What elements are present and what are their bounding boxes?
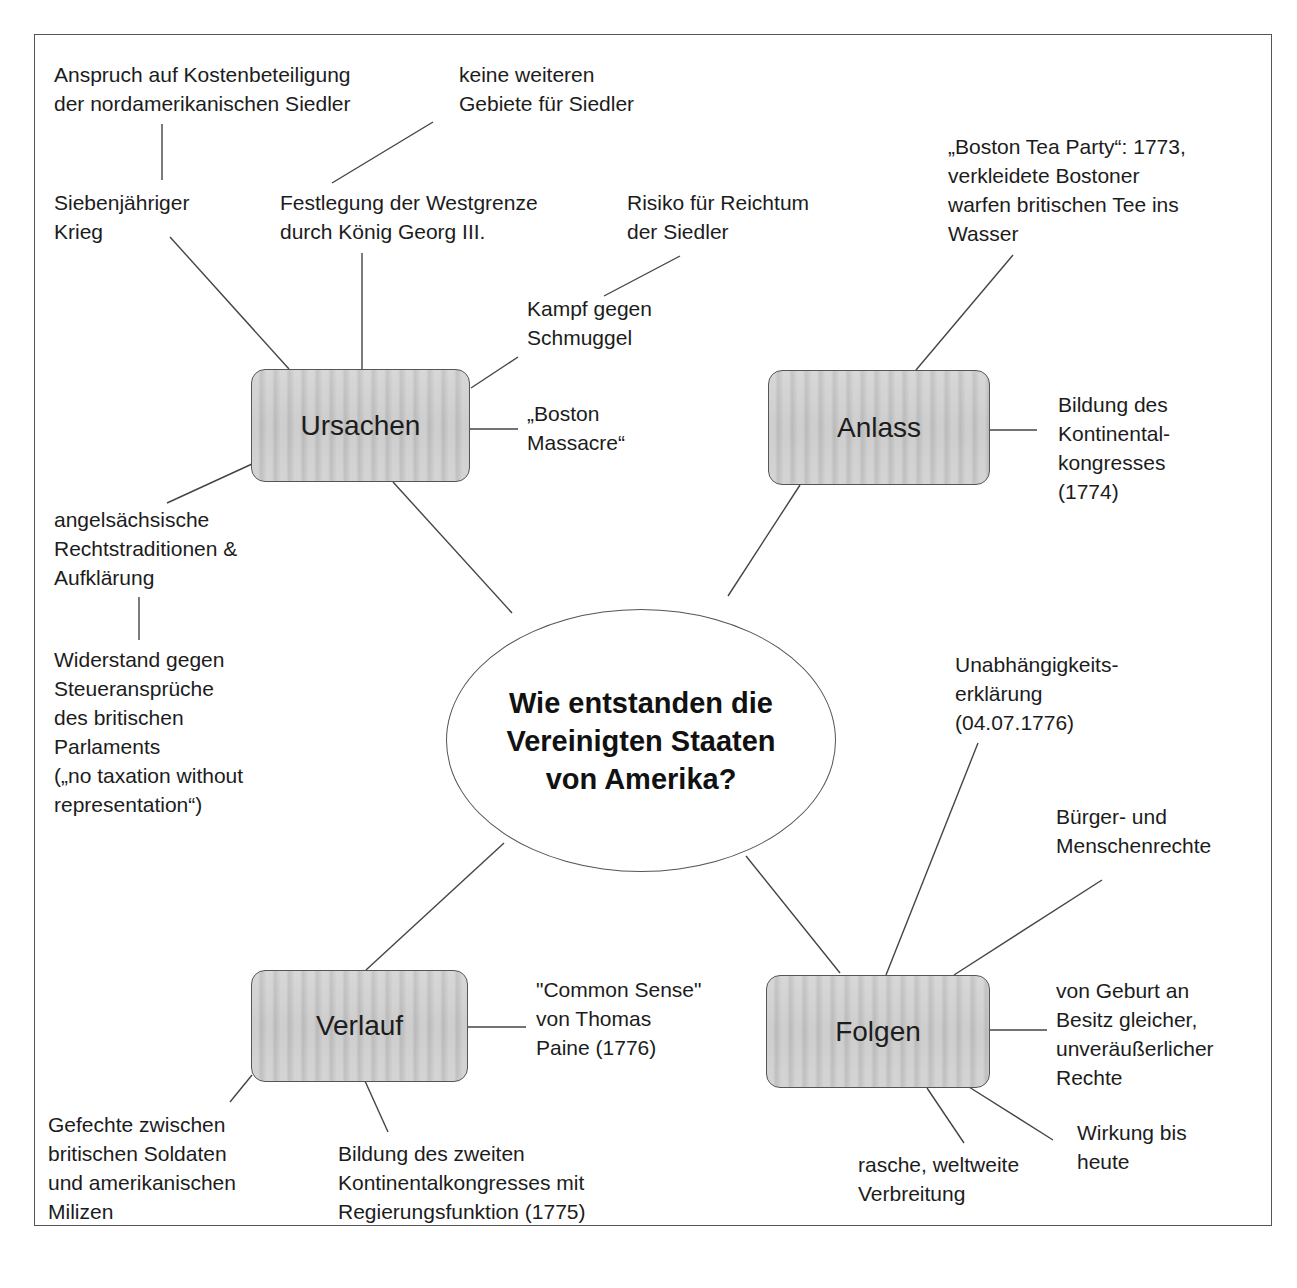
hub-anlass-label: Anlass (837, 412, 921, 444)
label-schmuggel: Kampf gegen Schmuggel (527, 294, 652, 352)
hub-verlauf: Verlauf (251, 970, 468, 1082)
label-kostenbeteiligung: Anspruch auf Kostenbeteiligung der norda… (54, 60, 351, 118)
connector-buerger-folgen (954, 880, 1102, 975)
connector-center-ursachen (393, 482, 512, 613)
label-siebenjaehriger-krieg: Siebenjähriger Krieg (54, 188, 189, 246)
connector-verlauf-kongress (365, 1081, 388, 1132)
connector-folgen-wirkung (969, 1087, 1053, 1140)
connector-risiko-schmuggel (604, 256, 680, 296)
connector-folgen-verbreitung (927, 1088, 964, 1143)
hub-ursachen: Ursachen (251, 369, 470, 482)
label-kontinentalkongress: Bildung des Kontinental- kongresses (177… (1058, 390, 1170, 506)
hub-folgen-label: Folgen (835, 1016, 921, 1048)
hub-anlass: Anlass (768, 370, 990, 485)
label-widerstand: Widerstand gegen Steueransprüche des bri… (54, 645, 243, 819)
label-unabhaengigkeit: Unabhängigkeits- erklärung (04.07.1776) (955, 650, 1118, 737)
connector-center-verlauf (366, 843, 504, 970)
connector-unabh-folgen (886, 743, 978, 975)
connector-gebiete-westgrenze (332, 122, 433, 183)
connector-teaparty-anlass (916, 255, 1013, 370)
label-common-sense: "Common Sense" von Thomas Paine (1776) (536, 975, 701, 1062)
central-question: Wie entstanden die Vereinigten Staaten v… (446, 609, 836, 872)
label-rechtstraditionen: angelsächsische Rechtstraditionen & Aufk… (54, 505, 237, 592)
label-wirkung: Wirkung bis heute (1077, 1118, 1187, 1176)
label-westgrenze: Festlegung der Westgrenze durch König Ge… (280, 188, 538, 246)
label-geburt: von Geburt an Besitz gleicher, unveräuße… (1056, 976, 1214, 1092)
connector-center-folgen (746, 856, 840, 973)
connector-center-anlass (728, 485, 800, 596)
label-boston-massacre: „Boston Massacre“ (527, 399, 625, 457)
label-buergerrechte: Bürger- und Menschenrechte (1056, 802, 1211, 860)
connector-schmuggel-ursachen (471, 357, 518, 388)
label-gefechte: Gefechte zwischen britischen Soldaten un… (48, 1110, 236, 1226)
hub-ursachen-label: Ursachen (301, 410, 421, 442)
hub-folgen: Folgen (766, 975, 990, 1088)
label-risiko: Risiko für Reichtum der Siedler (627, 188, 809, 246)
label-tea-party: „Boston Tea Party“: 1773, verkleidete Bo… (948, 132, 1186, 248)
label-keine-gebiete: keine weiteren Gebiete für Siedler (459, 60, 634, 118)
connector-verlauf-gefechte (230, 1075, 252, 1102)
central-question-text: Wie entstanden die Vereinigten Staaten v… (506, 684, 775, 798)
hub-verlauf-label: Verlauf (316, 1010, 403, 1042)
label-zweiter-kongress: Bildung des zweiten Kontinentalkongresse… (338, 1139, 586, 1226)
connector-krieg-ursachen (170, 237, 289, 369)
connector-ursachen-rechtstraditionen (167, 464, 252, 503)
label-verbreitung: rasche, weltweite Verbreitung (858, 1150, 1019, 1208)
